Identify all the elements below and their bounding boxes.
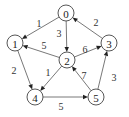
node-label: 3 bbox=[106, 38, 112, 50]
edge-2-to-3: 6 bbox=[74, 44, 101, 57]
edge-weight-label: 2 bbox=[94, 17, 99, 28]
edge-weight-label: 7 bbox=[82, 70, 87, 81]
arrowhead-icon bbox=[65, 47, 69, 52]
edge-line bbox=[66, 21, 67, 47]
node-label: 0 bbox=[63, 8, 69, 20]
arrowhead-icon bbox=[83, 95, 88, 99]
edge-line bbox=[77, 20, 103, 38]
node-label: 5 bbox=[93, 92, 99, 104]
edge-5-to-2: 7 bbox=[72, 66, 91, 90]
edge-weight-label: 1 bbox=[37, 18, 42, 29]
node-4: 4 bbox=[27, 89, 43, 105]
edge-line bbox=[26, 17, 59, 36]
node-3: 3 bbox=[101, 35, 117, 51]
edge-line bbox=[18, 51, 31, 85]
node-2: 2 bbox=[59, 52, 75, 68]
edge-3-to-0: 2 bbox=[73, 17, 103, 39]
edge-weight-label: 3 bbox=[57, 28, 62, 39]
edge-weight-label: 2 bbox=[12, 65, 17, 76]
edge-0-to-2: 3 bbox=[57, 21, 69, 52]
arrowhead-icon bbox=[28, 84, 32, 89]
nodes-layer: 012345 bbox=[7, 5, 117, 105]
edge-weight-label: 5 bbox=[42, 40, 47, 51]
arrowhead-icon bbox=[104, 51, 108, 56]
arrowhead-icon bbox=[73, 18, 78, 23]
arrowhead-icon bbox=[23, 45, 28, 49]
edge-1-to-4: 2 bbox=[12, 51, 33, 90]
arrowhead-icon bbox=[72, 66, 77, 71]
arrowhead-icon bbox=[22, 35, 27, 39]
graph-diagram: 1325621753 012345 bbox=[0, 0, 129, 117]
edge-line bbox=[98, 56, 106, 90]
node-label: 4 bbox=[32, 92, 38, 104]
edge-weight-label: 1 bbox=[46, 67, 51, 78]
node-label: 2 bbox=[64, 55, 70, 67]
node-label: 1 bbox=[12, 38, 18, 50]
edge-2-to-1: 5 bbox=[23, 40, 60, 58]
edge-weight-label: 6 bbox=[83, 44, 88, 55]
node-1: 1 bbox=[7, 35, 23, 51]
edge-5-to-3: 3 bbox=[98, 51, 117, 89]
edge-2-to-4: 1 bbox=[40, 66, 62, 91]
edge-weight-label: 5 bbox=[59, 101, 64, 112]
edge-4-to-5: 5 bbox=[43, 95, 88, 112]
edge-weight-label: 3 bbox=[112, 72, 117, 83]
edge-0-to-1: 1 bbox=[22, 17, 59, 39]
node-0: 0 bbox=[58, 5, 74, 21]
node-5: 5 bbox=[88, 89, 104, 105]
